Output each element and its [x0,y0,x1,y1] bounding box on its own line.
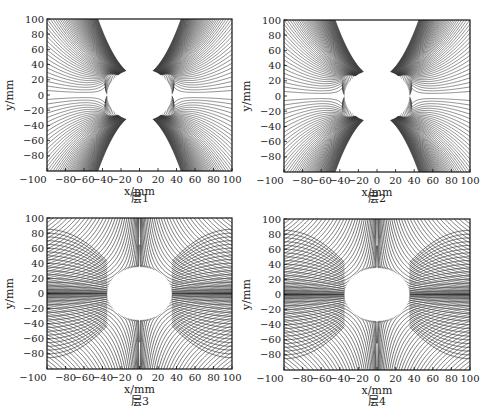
x-tick-label: 100 [460,373,479,384]
caption-layer-4: 层4 [347,392,407,408]
x-tick-label: −100 [256,373,283,384]
x-tick-label: 0 [374,373,380,384]
caption-layer-1: 层1 [110,189,170,205]
y-axis-label: y/mm [240,279,253,311]
caption-layer-3: 层3 [110,392,170,408]
y-tick-label: −60 [260,334,281,345]
y-tick-label: −20 [260,304,281,315]
y-tick-label: 100 [262,214,281,225]
y-tick-label: 80 [268,229,281,240]
x-tick-label: 20 [389,373,402,384]
y-tick-label: 60 [268,244,281,255]
y-tick-label: 20 [268,274,281,285]
x-tick-label: 80 [445,373,458,384]
caption-layer-2: 层2 [347,189,407,205]
y-tick-label: −80 [260,349,281,360]
y-tick-label: 40 [268,259,281,270]
y-tick-label: −40 [260,319,281,330]
fiber-paths [274,0,480,419]
x-tick-label: 60 [426,373,439,384]
x-tick-label: 40 [408,373,421,384]
x-tick-label: −20 [348,373,369,384]
plot-area: −100−80−60−40−20020406080100−80−60−40−20… [0,0,488,419]
y-tick-label: 0 [275,289,281,300]
